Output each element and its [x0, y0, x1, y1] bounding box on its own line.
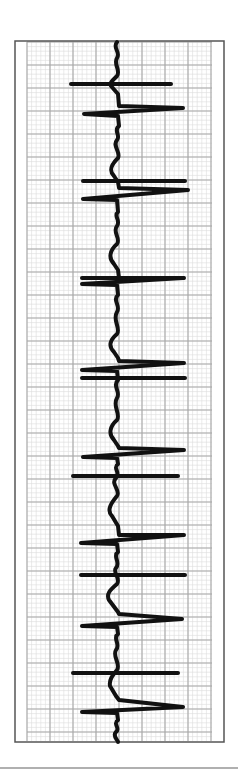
ecg-figure: [0, 0, 238, 772]
ecg-strip: [0, 0, 238, 772]
ecg-trace: [81, 42, 188, 742]
